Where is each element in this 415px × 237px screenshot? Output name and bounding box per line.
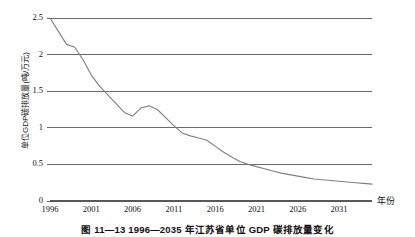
plot-area <box>0 0 415 212</box>
y-tick-label: 2.5 <box>17 13 43 22</box>
x-tick-label: 2006 <box>116 204 150 214</box>
figure-container: 单位GDP碳排放量(吨/万元) 0 0.5 1 1.5 2 2.5 1996 2… <box>0 0 415 237</box>
y-tick-label: 1.5 <box>17 86 43 95</box>
figure-caption: 图 11—13 1996—2035 年江苏省单位 GDP 碳排放量变化 <box>0 222 415 236</box>
x-tick-label: 2011 <box>157 204 191 214</box>
x-tick-label: 2021 <box>239 204 273 214</box>
x-tick-label: 2026 <box>281 204 315 214</box>
data-line <box>50 18 372 184</box>
y-tick-label: 1 <box>17 123 43 132</box>
x-tick-label: 1996 <box>33 204 67 214</box>
chart-svg <box>0 0 415 212</box>
x-tick-label: 2001 <box>74 204 108 214</box>
x-tick-label: 2031 <box>322 204 356 214</box>
x-tick-label: 2016 <box>198 204 232 214</box>
y-tick-label: 0.5 <box>17 159 43 168</box>
x-axis-title: 年份 <box>377 194 395 207</box>
y-tick-label: 2 <box>17 50 43 59</box>
